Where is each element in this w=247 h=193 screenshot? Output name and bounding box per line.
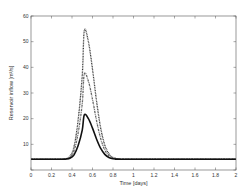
x-tick-label: 2	[235, 172, 238, 178]
chart: 00.20.40.60.811.21.41.61.82 102030405060…	[0, 0, 247, 193]
x-tick-label: 1.2	[151, 172, 158, 178]
x-tick-label: 1.4	[171, 172, 178, 178]
x-tick-label: 0.6	[89, 172, 96, 178]
series-line-2	[31, 73, 236, 159]
x-tick-label: 1	[132, 172, 135, 178]
x-axis-label: Time [days]	[119, 180, 148, 186]
y-axis-ticks: 102030405060	[23, 13, 236, 170]
series-line-1	[31, 29, 236, 159]
y-tick-label: 30	[23, 90, 29, 96]
plot-area	[31, 29, 236, 159]
x-axis-ticks: 00.20.40.60.811.21.41.61.82	[30, 16, 238, 178]
y-tick-label: 10	[23, 141, 29, 147]
x-tick-label: 0.2	[48, 172, 55, 178]
y-axis-label: Reservoir inflow [m³/s]	[8, 65, 14, 120]
y-tick-label: 50	[23, 38, 29, 44]
y-tick-label: 40	[23, 64, 29, 70]
series-line-3	[31, 114, 236, 159]
axes-frame	[31, 16, 236, 170]
x-tick-label: 0	[30, 172, 33, 178]
x-tick-label: 1.8	[212, 172, 219, 178]
y-tick-label: 20	[23, 115, 29, 121]
x-tick-label: 1.6	[192, 172, 199, 178]
x-tick-label: 0.8	[110, 172, 117, 178]
y-tick-label: 60	[23, 13, 29, 19]
x-tick-label: 0.4	[69, 172, 76, 178]
